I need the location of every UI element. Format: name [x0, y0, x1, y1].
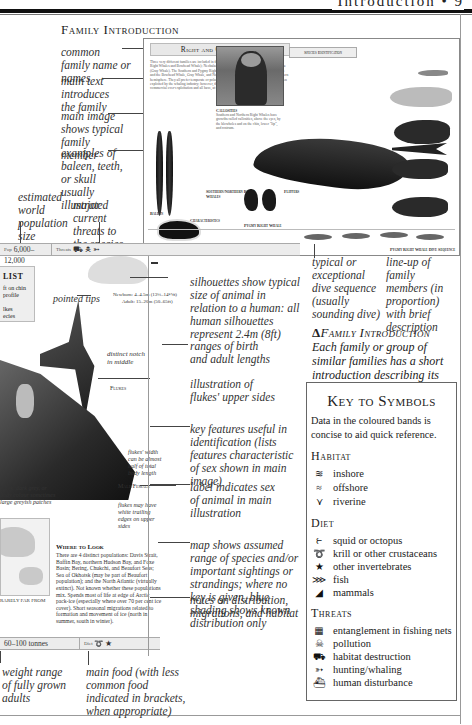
riverine-icon: ⋎ [311, 495, 327, 508]
annotation-silhouettes: silhouettes show typical size of animal … [190, 276, 300, 341]
fish-icon: ⋙ [311, 573, 327, 586]
dive-sequence-whale [416, 234, 444, 240]
annotation-dive: typical or exceptional dive sequence (us… [312, 256, 384, 321]
annotation-food: main food (with less common food indicat… [86, 666, 186, 718]
key-to-symbols-panel: Key to Symbols Data in the coloured band… [306, 382, 457, 701]
baleen-plate-image [166, 131, 173, 216]
offshore-icon: ≈ [311, 481, 327, 494]
inshore-icon: ≋ [311, 467, 327, 480]
dive-sequence-whale [304, 234, 332, 240]
southern-right-whale-image [392, 197, 448, 217]
threat-disturbance: ⛴human disturbance [311, 676, 413, 689]
northern-right-whale-image [392, 159, 448, 179]
flippers-caption: Flippers [284, 189, 299, 194]
baleen-caption: Baleen [150, 211, 163, 216]
star-icon: ★ [311, 560, 327, 573]
main-whale-tail [392, 143, 447, 155]
annotation-flukes-white: flukes may have white trailing edges on … [118, 502, 160, 530]
annotation-weight: weight range of fully grown adults [2, 666, 68, 705]
callosities-photo [216, 46, 284, 106]
dive-sequence-rule [148, 229, 455, 230]
annotation-population: estimated world population size [18, 191, 66, 243]
flipper-image [244, 189, 258, 211]
harpoon-icon: ➳ [93, 245, 100, 254]
squid-icon: ⥼ [311, 534, 327, 547]
skull-icon: ☠ [311, 637, 327, 650]
annotation-distinct-notch: distinct notch in middle [107, 350, 149, 366]
leader-line [99, 222, 100, 244]
tractor-icon: ⛟ [311, 650, 327, 663]
leader-line [150, 484, 190, 485]
male-female-label: Male/Female [118, 483, 150, 489]
leader-line [130, 277, 168, 278]
net-icon: ▦ [311, 624, 327, 637]
dive-sequence-whale [380, 232, 408, 238]
star-icon: ★ [105, 639, 112, 648]
checklist-row: profile [3, 292, 19, 299]
leader-line [140, 485, 176, 486]
leader-line [0, 651, 1, 663]
weight-value: 60–100 tonnes [4, 639, 48, 648]
header-rule-thin [0, 14, 472, 15]
distribution-map [0, 518, 50, 596]
leader-line [20, 222, 21, 244]
threats-cell: Threats ⛟ ☠ ➳ [52, 244, 132, 255]
whale-body-patch [16, 384, 34, 418]
column-divider [148, 256, 149, 656]
main-whale-image [252, 131, 411, 195]
leader-line [150, 426, 190, 427]
dive-sequence-whale [342, 233, 370, 239]
annotation-flukes-width: flukes' width can be almost half of tota… [128, 449, 164, 477]
leader-line [88, 651, 89, 665]
flipper-image [262, 189, 276, 211]
mammal-icon: ◢ [311, 586, 327, 599]
annotation-notes: notes on distribution, migrations, and h… [190, 594, 300, 620]
whale-body-image [0, 360, 135, 500]
krill-icon: ➰ [311, 547, 327, 560]
section-title: Family Introduction [61, 22, 179, 38]
running-head: Introduction • 9 [332, 0, 464, 10]
dive-sequence-caption: Pygmy Right Whale Dive Sequence [390, 247, 455, 252]
callosities-text: Southern and Northern Right Whales have … [216, 113, 282, 131]
leader-line [162, 344, 188, 345]
diet-squid: ⥼squid or octopus [311, 534, 402, 547]
family-intro-heading: ΔFamily Introduction [312, 325, 430, 341]
threat-nets: ▦entanglement in fishing nets [311, 624, 452, 637]
habitat-riverine: ⋎riverine [311, 495, 366, 508]
gray-whale-image [390, 87, 452, 107]
where-to-look-title: Where to Look [56, 543, 104, 550]
key-title: Key to Symbols [307, 393, 456, 410]
leader-line [150, 597, 190, 598]
species-identification-title: Species Identification [289, 47, 357, 58]
population-threats-band: Pop 6,000–12,000 Threats ⛟ ☠ ➳ [0, 243, 300, 256]
flukes-label: Flukes [110, 385, 126, 391]
where-to-look-text: There are 4 distinct populations: Davis … [56, 552, 162, 625]
harpoon-icon: ➳ [311, 663, 327, 676]
checklist-row: ecies [3, 313, 15, 320]
checklist-row: ft on chin [3, 285, 26, 292]
threat-hunting: ➳hunting/whaling [311, 663, 402, 676]
boat-icon: ⛴ [311, 676, 327, 689]
threat-habitat: ⛟habitat destruction [311, 650, 411, 663]
map-caption: RARELY FAR FROM [0, 599, 45, 603]
habitat-heading: Habitat [311, 449, 351, 464]
leader-line [102, 78, 144, 79]
pygmy-right-caption: Pygmy Right Whale [244, 223, 282, 228]
krill-icon: ➰ [94, 639, 103, 648]
leader-line [98, 378, 150, 379]
skull-image [157, 219, 201, 241]
diet-krill: ➰krill or other crustaceans [311, 547, 437, 560]
diet-invertebrates: ★other invertebrates [311, 560, 411, 573]
annotation-colour-note: black, dark grey, or body colour sometim… [0, 485, 58, 506]
where-to-look-panel: Where to Look There are 4 distinct popul… [50, 541, 160, 615]
leader-line [158, 542, 190, 543]
human-silhouette [151, 262, 158, 264]
annotation-sex-label: label indicates sex of animal in main il… [190, 481, 280, 520]
bottom-rule [0, 715, 461, 716]
habitat-inshore: ≋inshore [311, 467, 364, 480]
annotation-main-text: main text introduces the family [61, 75, 123, 114]
weight-diet-band: 60–100 tonnes Diet ➰ ★ [0, 637, 160, 650]
habitat-offshore: ≈offshore [311, 481, 368, 494]
checklist-panel: LIST ft on chin profile lkes ecies [0, 266, 35, 322]
checklist-row: lkes [3, 306, 13, 313]
